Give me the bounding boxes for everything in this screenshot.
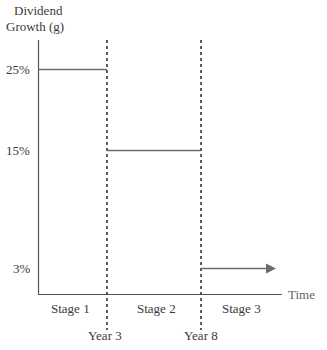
chart-canvas xyxy=(0,0,327,350)
arrow-head-icon xyxy=(266,264,276,274)
year3-label: Year 3 xyxy=(88,328,122,343)
y-axis-label-line1: Dividend xyxy=(14,3,62,18)
year8-label: Year 8 xyxy=(184,328,218,343)
y-tick-15: 15% xyxy=(6,143,30,158)
stage1-label: Stage 1 xyxy=(51,301,90,316)
stage2-label: Stage 2 xyxy=(137,301,176,316)
x-axis-label: Time xyxy=(288,287,315,302)
y-tick-3: 3% xyxy=(13,261,30,276)
y-tick-25: 25% xyxy=(6,62,30,77)
y-axis-label-line2: Growth (g) xyxy=(6,19,64,34)
stage3-label: Stage 3 xyxy=(222,301,261,316)
